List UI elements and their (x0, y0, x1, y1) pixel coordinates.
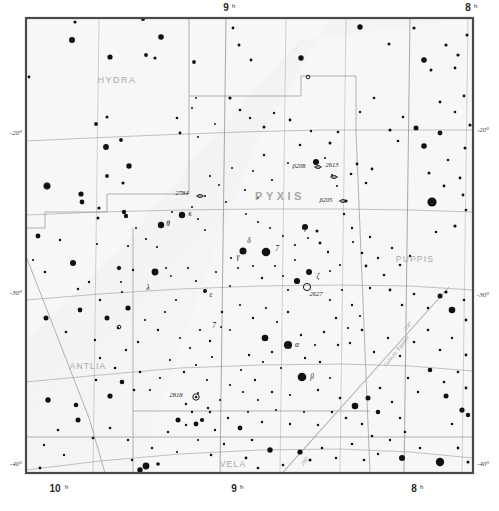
star (365, 182, 368, 185)
star (379, 387, 382, 390)
star (331, 411, 333, 413)
star (215, 271, 217, 273)
star (44, 316, 49, 321)
star (69, 37, 75, 43)
star (80, 200, 85, 205)
star (376, 410, 381, 415)
star (451, 337, 453, 339)
star (107, 393, 112, 398)
star (465, 209, 468, 212)
star (257, 221, 259, 223)
star (229, 329, 231, 331)
star (248, 354, 250, 356)
star (289, 394, 291, 396)
star (144, 53, 148, 57)
star (345, 417, 348, 420)
star (439, 101, 442, 104)
star (273, 112, 275, 114)
deepsky-label-double-star: β208 (292, 162, 307, 169)
star (118, 267, 121, 270)
svg-text:8: 8 (411, 483, 417, 494)
dec-label-left: -20° (10, 129, 22, 137)
star (133, 389, 136, 392)
star (106, 116, 109, 119)
star-label: 7 (212, 321, 216, 330)
star (464, 147, 467, 150)
star (417, 391, 420, 394)
star (310, 130, 312, 132)
star (158, 34, 164, 40)
star (335, 457, 337, 459)
star (337, 344, 339, 346)
star (444, 290, 447, 293)
star (307, 237, 309, 239)
constellation-label-hydra: HYDRA (97, 75, 136, 85)
star (223, 443, 225, 445)
star (187, 267, 189, 269)
star (74, 403, 79, 408)
star (125, 349, 127, 351)
star (304, 357, 306, 359)
star (197, 439, 199, 441)
star (149, 389, 151, 391)
star-label: δ (247, 236, 251, 245)
svg-text:h: h (65, 484, 68, 490)
star (65, 331, 68, 334)
star (242, 391, 244, 393)
star (327, 251, 329, 253)
star (164, 311, 166, 313)
star (316, 230, 319, 233)
star (192, 60, 196, 64)
star (126, 163, 131, 168)
star (39, 467, 42, 470)
star (365, 265, 368, 268)
star (209, 340, 211, 342)
star (287, 162, 289, 164)
star (99, 357, 101, 359)
star (137, 467, 142, 472)
star (191, 107, 193, 109)
star (453, 224, 456, 227)
star (444, 43, 447, 46)
star (143, 463, 150, 470)
star (169, 359, 171, 361)
star (257, 399, 259, 401)
dec-label-right: -30° (477, 291, 489, 299)
star (232, 27, 235, 30)
star-chart-pyxis: HYDRAPYXISPUPPISANTLIAVELA θκλεδγηζαβ77 … (0, 0, 499, 511)
star (28, 76, 31, 79)
star (399, 355, 401, 357)
star (391, 247, 393, 249)
star (92, 437, 95, 440)
star (454, 111, 457, 114)
star (214, 429, 216, 431)
star (463, 95, 466, 98)
star (319, 361, 321, 363)
deepsky-label-planetary-nebula: 2818 (170, 391, 184, 398)
star (238, 426, 243, 431)
star (167, 431, 169, 433)
star (465, 387, 468, 390)
star (298, 373, 307, 382)
star (73, 20, 76, 23)
star (121, 291, 123, 293)
star (275, 409, 277, 411)
star (125, 305, 130, 310)
star (319, 242, 322, 245)
star (105, 174, 109, 178)
star (289, 119, 292, 122)
star (114, 367, 117, 370)
star (363, 459, 366, 462)
star (175, 299, 177, 301)
star (263, 126, 266, 129)
star (203, 289, 207, 293)
star (351, 443, 354, 446)
star (179, 337, 181, 339)
star (176, 418, 181, 423)
star (282, 275, 284, 277)
deepsky-label-galaxy: 2784 (176, 189, 190, 196)
star (96, 243, 98, 245)
star (247, 411, 249, 413)
star (105, 316, 110, 321)
star (428, 172, 431, 175)
